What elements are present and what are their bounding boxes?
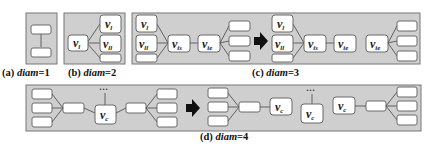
caption-d: (d) diam=4 (200, 131, 249, 143)
node (31, 25, 51, 34)
caption-a: (a) diam=1 (2, 67, 50, 79)
panel-c: vl vll vis vie vl vll vis vie vie (132, 13, 420, 64)
svg-text:…: … (306, 83, 315, 93)
svg-text:…: … (99, 82, 108, 92)
panel-d: … vc vc … vc vc (26, 82, 421, 131)
node (31, 48, 51, 57)
panel-a (26, 13, 57, 64)
caption-c: (c) diam=3 (252, 67, 299, 79)
panel-b: vl vl vll (64, 13, 125, 64)
diameter-figure: vl vl vll vl vll vis vie (0, 0, 440, 150)
caption-b: (b) diam=2 (68, 67, 116, 79)
